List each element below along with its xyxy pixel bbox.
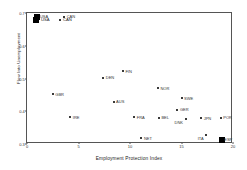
- point-label: GER: [180, 107, 189, 112]
- legend-label: USA: [41, 17, 50, 22]
- point-marker-icon: [69, 116, 71, 118]
- point-marker-icon: [220, 117, 222, 119]
- point-label: ITA: [198, 136, 204, 141]
- plot-area: 0.70.60.50.40.3 05101520 USACANGBRIREDEN…: [26, 12, 232, 143]
- y-tick-mark: [25, 13, 27, 14]
- x-tick-mark: [27, 142, 28, 144]
- point-label: DEN: [106, 75, 114, 80]
- scatter-chart-figure: Flow Into Unemployment Employment Protec…: [0, 0, 247, 170]
- point-marker-icon: [200, 117, 202, 119]
- y-tick-mark: [25, 78, 27, 79]
- point-marker-icon: [133, 116, 135, 118]
- point-marker-icon: [158, 117, 160, 119]
- point-label: GBR: [55, 92, 64, 97]
- point-label: ESP: [224, 137, 232, 142]
- x-tick-mark: [130, 142, 131, 144]
- x-tick-mark: [181, 142, 182, 144]
- point-label: IRE: [73, 115, 80, 120]
- x-axis-title: Employment Protection Index: [26, 156, 232, 161]
- y-axis-title: Flow Into Unemployment: [16, 0, 21, 119]
- legend-marker-icon: [59, 19, 61, 21]
- y-tick-mark: [25, 111, 27, 112]
- point-marker-icon: [185, 118, 187, 120]
- legend-entry-usa: USA: [33, 17, 50, 23]
- point-marker-icon: [205, 134, 207, 136]
- x-tick-mark: [78, 142, 79, 144]
- chart-legend: USACAN: [33, 17, 72, 23]
- x-tick-mark: [233, 142, 234, 144]
- legend-entry-can: CAN: [59, 17, 72, 22]
- point-marker-icon: [157, 87, 159, 89]
- point-marker-icon: [102, 77, 104, 79]
- point-label: JPN: [204, 116, 212, 121]
- point-marker-icon: [122, 70, 124, 72]
- y-tick-mark: [25, 45, 27, 46]
- point-marker-icon: [181, 97, 183, 99]
- point-marker-icon: [176, 109, 178, 111]
- point-label: FIN: [125, 69, 131, 74]
- point-label: NET: [144, 136, 152, 141]
- point-label: NOR: [160, 86, 169, 91]
- point-marker-icon: [140, 137, 142, 139]
- legend-label: CAN: [63, 17, 72, 22]
- point-label: SWE: [184, 96, 193, 101]
- point-marker-icon: [113, 101, 115, 103]
- point-label: POR: [223, 115, 232, 120]
- point-label: FRA: [137, 115, 145, 120]
- point-label: BEL: [161, 115, 169, 120]
- point-label: AUS: [116, 99, 124, 104]
- point-marker-icon: [52, 93, 54, 95]
- point-label: DNK: [175, 120, 183, 125]
- legend-marker-icon: [33, 17, 39, 23]
